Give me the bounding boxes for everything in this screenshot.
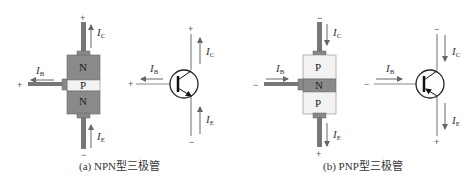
npn-layer-mid: P (80, 79, 86, 91)
pnp-emitter-lead (317, 117, 322, 147)
pnp-structure: P N P − − + IC IB IE (253, 13, 342, 159)
npn-caption: (a) NPN型三极管 (79, 157, 160, 173)
npn-symbol-circle (170, 70, 198, 98)
npn-symbol: + + − IC IB IE (128, 24, 215, 147)
npn-collector-sign: + (80, 13, 85, 23)
pnp-emitter-sign: + (316, 149, 321, 159)
npn-base-lead (28, 82, 64, 86)
pnp-symbol-ie-label: IE (451, 114, 460, 128)
pnp-collector-lead (317, 22, 322, 54)
npn-collector-lead (81, 22, 86, 54)
npn-symbol-collector-sign: + (188, 24, 193, 34)
npn-symbol-ib-label: IB (149, 62, 159, 76)
transistor-diagram: N P N + + − IC IB IE + + − IC IB IE (0, 0, 476, 184)
pnp-symbol-base-sign: − (364, 79, 369, 89)
pnp-symbol: − − + IC IB IE (364, 24, 461, 147)
npn-symbol-ic-label: IC (205, 45, 215, 59)
pnp-symbol-ib-label: IB (385, 62, 395, 76)
pnp-symbol-emitter-sign: + (434, 137, 439, 147)
pnp-symbol-circle (416, 70, 444, 98)
pnp-ic-label: IC (332, 26, 342, 40)
pnp-base-sign: − (253, 80, 258, 90)
npn-symbol-emitter-sign: − (189, 137, 194, 147)
pnp-symbol-ic-label: IC (451, 45, 461, 59)
pnp-layer-top: P (315, 61, 321, 73)
npn-layer-top: N (79, 61, 87, 73)
npn-symbol-ie-label: IE (205, 113, 214, 127)
pnp-layer-mid: N (315, 79, 323, 91)
pnp-symbol-collector-sign: − (434, 24, 439, 34)
npn-ic-label: IC (96, 26, 106, 40)
npn-symbol-base-sign: + (128, 79, 133, 89)
npn-emitter-lead (81, 117, 86, 149)
pnp-collector-sign: − (317, 13, 322, 23)
pnp-caption: (b) PNP型三极管 (323, 157, 403, 173)
npn-ie-label: IE (96, 130, 105, 144)
npn-base-sign: + (17, 80, 22, 90)
pnp-ib-label: IB (275, 62, 285, 76)
pnp-ie-label: IE (332, 128, 341, 142)
pnp-layer-bot: P (315, 97, 321, 109)
pnp-base-lead (264, 82, 300, 86)
npn-layer-bot: N (79, 95, 87, 107)
npn-structure: N P N + + − IC IB IE (17, 13, 106, 160)
npn-ib-label: IB (35, 64, 45, 78)
